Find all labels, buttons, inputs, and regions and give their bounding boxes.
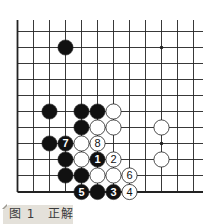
black-stone bbox=[58, 168, 73, 183]
move-number: 8 bbox=[94, 137, 100, 149]
go-board: 78126534 bbox=[0, 0, 216, 205]
stone-disc bbox=[74, 136, 89, 151]
black-stone-move-7: 7 bbox=[58, 136, 73, 151]
move-number: 1 bbox=[94, 153, 100, 165]
white-stone bbox=[74, 136, 89, 151]
white-stone bbox=[106, 168, 121, 183]
stone-disc bbox=[90, 168, 105, 183]
black-stone bbox=[42, 136, 57, 151]
move-number: 4 bbox=[126, 186, 132, 198]
stone-disc bbox=[106, 168, 121, 183]
stone-disc bbox=[106, 104, 121, 119]
black-stone bbox=[74, 168, 89, 183]
white-stone bbox=[106, 104, 121, 119]
star-point bbox=[160, 142, 164, 146]
black-stone bbox=[90, 104, 105, 119]
black-stone bbox=[58, 40, 73, 55]
white-stone-move-2: 2 bbox=[106, 152, 121, 167]
stone-disc bbox=[58, 168, 73, 183]
black-stone bbox=[58, 152, 73, 167]
star-point bbox=[160, 46, 164, 50]
stone-disc bbox=[74, 168, 89, 183]
stone-disc bbox=[90, 120, 105, 135]
stone-disc bbox=[42, 136, 57, 151]
stone-disc bbox=[154, 120, 169, 135]
black-stone bbox=[74, 104, 89, 119]
black-stone bbox=[90, 184, 105, 199]
white-stone-move-8: 8 bbox=[90, 136, 105, 151]
white-stone bbox=[90, 168, 105, 183]
white-stone bbox=[154, 152, 169, 167]
white-stone bbox=[74, 152, 89, 167]
white-stone-move-6: 6 bbox=[122, 168, 137, 183]
stone-disc bbox=[74, 104, 89, 119]
stone-disc bbox=[58, 152, 73, 167]
white-stone bbox=[154, 120, 169, 135]
stone-disc bbox=[90, 104, 105, 119]
white-stone bbox=[106, 120, 121, 135]
stone-disc bbox=[42, 104, 57, 119]
black-stone-move-5: 5 bbox=[74, 184, 89, 199]
white-stone bbox=[90, 120, 105, 135]
move-number: 3 bbox=[110, 186, 116, 198]
black-stone-move-1: 1 bbox=[90, 152, 105, 167]
stone-disc bbox=[154, 152, 169, 167]
white-stone-move-4: 4 bbox=[122, 184, 137, 199]
move-number: 2 bbox=[110, 153, 116, 165]
black-stone bbox=[74, 120, 89, 135]
stone-disc bbox=[106, 120, 121, 135]
black-stone-move-3: 3 bbox=[106, 184, 121, 199]
move-number: 5 bbox=[78, 186, 84, 198]
stone-disc bbox=[74, 120, 89, 135]
move-number: 7 bbox=[62, 137, 68, 149]
black-stone bbox=[42, 104, 57, 119]
stone-disc bbox=[74, 152, 89, 167]
move-number: 6 bbox=[126, 169, 132, 181]
figure-caption: 图 1 正解 bbox=[9, 207, 74, 222]
stone-disc bbox=[90, 184, 105, 199]
stone-disc bbox=[58, 40, 73, 55]
